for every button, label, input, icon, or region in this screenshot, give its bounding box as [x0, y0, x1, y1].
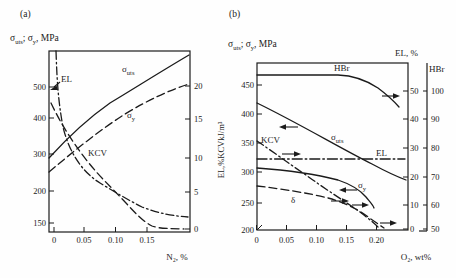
panel-b-y-right-far-title: HBr [429, 64, 445, 74]
panel-b-yrightinnertick-50: 50 [410, 86, 419, 96]
panel-b-far-right-axis [419, 63, 427, 231]
panel-b-label-sigma-y: σy [358, 180, 367, 192]
panel-b-label-el: EL [376, 148, 387, 158]
panel-a-ylefttick-150: 150 [33, 218, 46, 228]
panel-b-x-tickmarks [257, 225, 377, 230]
panel-a-label-sigma-y: σy [127, 110, 136, 122]
panel-b-ylefttick-250: 250 [241, 198, 254, 208]
panel-a-x-axis-title: N₂, % [166, 252, 188, 262]
panel-a-y-left-title: σuts; σy, MPa [10, 33, 60, 45]
panel-a-yrighttick-20: 20 [194, 81, 203, 91]
panel-a-xtick-0: 0 [52, 235, 56, 245]
panel-b-xtick-020: 0.20 [369, 235, 384, 245]
panel-a-yrighttick-10: 10 [194, 153, 203, 163]
panel-b-x-axis-title: O₂, wt% [401, 252, 432, 262]
panel-a-ylefttick-400: 400 [33, 113, 46, 123]
panel-a-label-el: EL [61, 74, 72, 84]
panel-a-xtick-010: 0.10 [108, 235, 123, 245]
panel-b-ylefttick-200: 200 [241, 225, 254, 235]
dual-panel-line-chart: (a) σuts; σy, MPa 500 400 300 200 150 20… [0, 0, 456, 278]
panel-a-xtick-015: 0.15 [140, 235, 155, 245]
panel-b-plot-box [257, 63, 408, 230]
panel-b-yrightinnertick-30: 30 [410, 143, 419, 153]
panel-b-xtick-0: 0 [254, 235, 258, 245]
panel-b-ylefttick-300: 300 [241, 167, 254, 177]
panel-a-label-sigma-uts: σuts [122, 64, 135, 76]
panel-b-yrightfartick-70: 70 [431, 172, 440, 182]
panel-b-xtick-015: 0.15 [339, 235, 354, 245]
panel-b-yrightfartick-100: 100 [431, 86, 444, 96]
panel-a-curve-sigma-uts [49, 55, 189, 158]
panel-a-y-right-tickmarks [185, 86, 190, 229]
panel-b-label-hbr: HBr [334, 63, 350, 73]
chart-canvas: (a) σuts; σy, MPa 500 400 300 200 150 20… [0, 0, 456, 278]
panel-a-curve-kcv [51, 103, 184, 229]
panel-b-arrow-sigma-uts-left [279, 124, 298, 130]
panel-b-y-right-inner-title: EL, % [395, 48, 418, 58]
panel-b-arrow-delta-right [352, 202, 369, 208]
panel-b-y-left-title: σuts; σy, MPa [228, 39, 278, 51]
panel-b-curve-delta [257, 186, 384, 228]
panel-b-yrightinnertick-40: 40 [410, 114, 419, 124]
panel-b-curve-hbr [257, 75, 399, 107]
panel-b-yrightfartick-90: 90 [431, 114, 440, 124]
panel-b-arrow-delta-end-right [380, 220, 397, 226]
panel-a-yrighttick-5: 5 [194, 187, 198, 197]
panel-a-ylefttick-300: 300 [33, 149, 46, 159]
panel-b-yrightfartick-80: 80 [431, 143, 440, 153]
panel-a-tag: (a) [20, 9, 31, 20]
panel-b-label-sigma-uts: σuts [331, 132, 344, 144]
panel-b-y-left-tickmarks [257, 85, 262, 230]
panel-b-xtick-010: 0.10 [309, 235, 324, 245]
panel-a-curve-el [56, 51, 188, 217]
panel-b-xtick-005: 0.05 [279, 235, 294, 245]
panel-a-ylefttick-500: 500 [33, 82, 46, 92]
panel-b-yrightinnertick-10: 10 [410, 200, 419, 210]
panel-a-yrighttick-0: 0 [194, 224, 198, 234]
panel-b-yrightinnertick-0: 0 [410, 224, 414, 234]
panel-a-ylefttick-200: 200 [33, 186, 46, 196]
panel-b-yrightfartick-50: 50 [431, 224, 440, 234]
panel-a-label-kcv: KCV [88, 148, 108, 158]
panel-a-yrighttick-15: 15 [194, 114, 203, 124]
panel-b-label-delta: δ [291, 195, 295, 205]
panel-b-y-left-vertical-title: EL,%KCVkJ/m³ [216, 121, 226, 178]
panel-b-ylefttick-400: 400 [241, 109, 254, 119]
panel-b-y-right-inner-tickmarks [403, 91, 408, 229]
panel-b-arrow-el-right [282, 151, 301, 157]
panel-b-ylefttick-350: 350 [241, 138, 254, 148]
panel-a-x-tickmarks [54, 227, 147, 232]
panel-b-tag: (b) [229, 9, 240, 20]
panel-b-yrightinnertick-20: 20 [410, 172, 419, 182]
panel-b-yrightfartick-60: 60 [431, 200, 440, 210]
panel-b-ylefttick-450: 450 [241, 80, 254, 90]
panel-a-xtick-005: 0.05 [77, 235, 92, 245]
panel-b-label-kcv: KCV [261, 135, 281, 145]
